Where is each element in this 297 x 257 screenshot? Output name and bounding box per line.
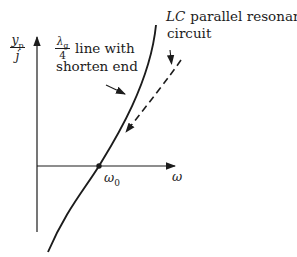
circuit-pointer-arrow: [170, 50, 172, 64]
solid-curve-label-line2: shorten end: [56, 59, 138, 75]
y-axis-label: yp j: [10, 33, 25, 62]
y-axis-label-denominator: j: [16, 49, 20, 62]
lc-symbol: LC: [166, 8, 185, 24]
y-axis-label-numerator: yp: [11, 33, 23, 46]
dashed-curve-label-line2: circuit: [167, 26, 211, 42]
resonance-point-dot: [96, 163, 101, 168]
plot-canvas: [0, 0, 297, 257]
shorten-end-pointer-arrow: [106, 85, 125, 94]
x-axis-label-omega: ω: [172, 170, 182, 184]
dashed-curve-label-line1: LCparallel resonant: [166, 9, 297, 25]
x-tick-label-omega0: ω0: [104, 171, 120, 185]
reactance-vs-frequency-figure: yp j λg 4 line with shorten end LCparall…: [0, 0, 297, 257]
solid-curve-label-text: line with: [75, 41, 135, 57]
